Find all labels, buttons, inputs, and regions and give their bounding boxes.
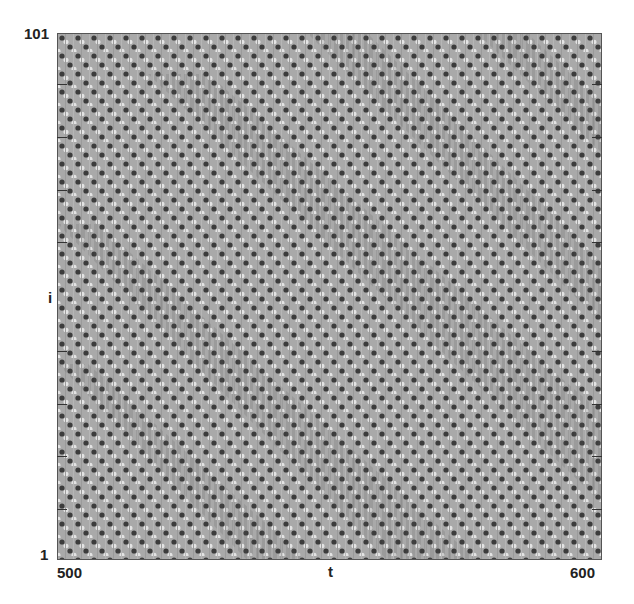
x-tick-label-right: 600 bbox=[570, 565, 595, 580]
y-tick bbox=[592, 242, 602, 243]
x-axis-label: t bbox=[328, 564, 333, 579]
y-tick bbox=[592, 404, 602, 405]
y-axis-label: i bbox=[48, 290, 52, 305]
y-tick bbox=[57, 137, 67, 138]
y-tick bbox=[57, 351, 67, 352]
y-tick bbox=[592, 456, 602, 457]
y-tick bbox=[57, 84, 67, 85]
heatmap-plot-area bbox=[57, 33, 602, 560]
y-tick bbox=[592, 509, 602, 510]
y-tick bbox=[57, 190, 67, 191]
y-tick bbox=[592, 84, 602, 85]
y-tick bbox=[592, 351, 602, 352]
y-tick bbox=[592, 190, 602, 191]
y-tick bbox=[57, 456, 67, 457]
spacetime-heatmap bbox=[58, 34, 602, 560]
y-tick-label-bottom: 1 bbox=[40, 547, 48, 562]
y-tick bbox=[592, 137, 602, 138]
y-tick bbox=[57, 242, 67, 243]
y-tick-label-top: 101 bbox=[24, 26, 49, 41]
x-tick-label-left: 500 bbox=[57, 565, 82, 580]
y-tick bbox=[57, 509, 67, 510]
y-tick bbox=[57, 404, 67, 405]
